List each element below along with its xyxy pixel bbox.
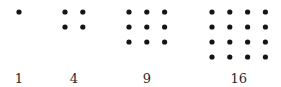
label-square-9: 9 (143, 71, 151, 86)
dot (144, 39, 149, 44)
dot (245, 9, 250, 14)
figure-square-4 (62, 9, 85, 29)
dot (209, 54, 214, 59)
dot (16, 9, 21, 14)
label-square-1: 1 (15, 71, 23, 86)
dot (245, 24, 250, 29)
dot (144, 9, 149, 14)
dot (209, 24, 214, 29)
square-numbers-diagram: 1 4 9 16 (0, 0, 281, 87)
dot (80, 24, 85, 29)
dot (245, 54, 250, 59)
dot (162, 9, 167, 14)
dot (209, 39, 214, 44)
dot (227, 24, 232, 29)
dot (227, 9, 232, 14)
dot (126, 24, 131, 29)
dot (126, 9, 131, 14)
dot (80, 9, 85, 14)
dot (263, 39, 268, 44)
dot (62, 24, 67, 29)
dot (227, 54, 232, 59)
dot (144, 24, 149, 29)
dot (245, 39, 250, 44)
dot (162, 39, 167, 44)
dot (227, 39, 232, 44)
dot (263, 54, 268, 59)
dot (62, 9, 67, 14)
dot (126, 39, 131, 44)
figure-square-9 (126, 9, 167, 44)
dot (209, 9, 214, 14)
figure-square-16 (209, 9, 268, 59)
dot (263, 9, 268, 14)
figure-square-1 (16, 9, 21, 14)
label-square-4: 4 (70, 71, 78, 86)
dot (162, 24, 167, 29)
label-square-16: 16 (230, 71, 247, 86)
dot (263, 24, 268, 29)
